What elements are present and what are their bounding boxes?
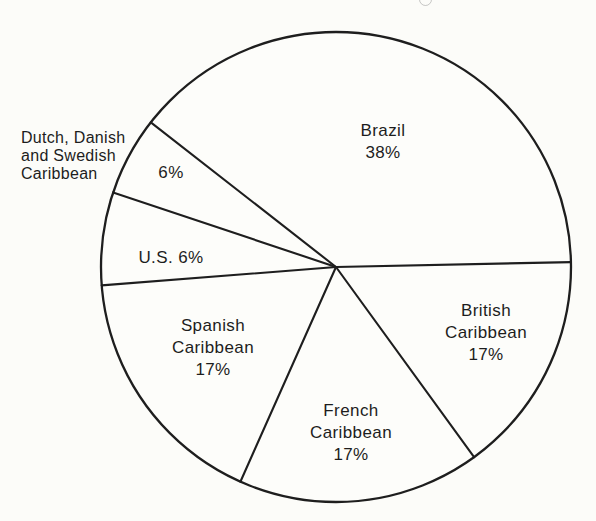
slice-label-french-caribbean: French Caribbean 17% xyxy=(310,400,392,466)
slice-name: Caribbean xyxy=(310,422,392,444)
slice-percent-dutch-danish-swedish: 6% xyxy=(158,162,183,184)
slice-percent: 6% xyxy=(158,162,183,184)
slice-label-spanish-caribbean: Spanish Caribbean 17% xyxy=(172,315,254,381)
slice-name: Spanish xyxy=(172,315,254,337)
pie-chart xyxy=(0,0,596,521)
slice-percent: 17% xyxy=(310,444,392,466)
slice-name: British xyxy=(445,300,527,322)
slice-name-line: and Swedish xyxy=(21,147,125,165)
slice-name: Caribbean xyxy=(445,322,527,344)
slice-percent: 38% xyxy=(361,142,406,164)
slice-name: Caribbean xyxy=(172,337,254,359)
slice-percent: 17% xyxy=(172,359,254,381)
slice-label-brazil: Brazil 38% xyxy=(361,120,406,164)
slice-label-dutch-danish-swedish: Dutch, Danish and Swedish Caribbean xyxy=(21,129,125,183)
slice-name-line: Caribbean xyxy=(21,165,125,183)
slice-percent: 17% xyxy=(445,344,527,366)
slice-name-line: Dutch, Danish xyxy=(21,129,125,147)
slice-name: Brazil xyxy=(361,120,406,142)
pie-chart-figure: Brazil 38% Dutch, Danish and Swedish Car… xyxy=(0,0,596,521)
slice-name: U.S. 6% xyxy=(138,247,203,269)
slice-label-us: U.S. 6% xyxy=(138,247,203,269)
slice-name: French xyxy=(310,400,392,422)
slice-label-british-caribbean: British Caribbean 17% xyxy=(445,300,527,366)
